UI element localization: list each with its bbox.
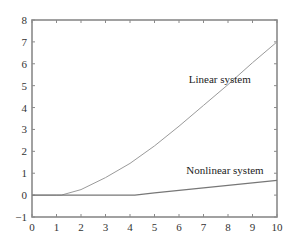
y-tick-label: 4 xyxy=(22,102,28,114)
y-tick-label: 2 xyxy=(22,145,28,157)
x-tick-label: 4 xyxy=(127,221,133,233)
plot-axes: 012345678910−1012345678 xyxy=(15,14,283,233)
y-tick-label: 0 xyxy=(22,189,28,201)
y-tick-label: 3 xyxy=(22,123,28,135)
nonlinear-system-label: Nonlinear system xyxy=(186,164,264,176)
y-tick-label: 8 xyxy=(22,14,28,26)
y-tick-label: 6 xyxy=(22,58,28,70)
x-tick-label: 2 xyxy=(78,221,84,233)
y-tick-label: 1 xyxy=(22,167,28,179)
plot-frame xyxy=(32,20,277,217)
x-tick-label: 6 xyxy=(176,221,182,233)
line-chart: 012345678910−1012345678 Linear systemNon… xyxy=(0,0,295,240)
x-tick-label: 5 xyxy=(152,221,158,233)
x-tick-label: 9 xyxy=(250,221,256,233)
x-tick-label: 8 xyxy=(225,221,231,233)
x-tick-label: 1 xyxy=(54,221,60,233)
y-tick-label: −1 xyxy=(15,211,27,223)
x-tick-label: 7 xyxy=(201,221,207,233)
x-tick-label: 3 xyxy=(103,221,109,233)
x-tick-label: 10 xyxy=(272,221,284,233)
y-tick-label: 7 xyxy=(22,36,28,48)
plot-annotations: Linear systemNonlinear system xyxy=(186,73,264,176)
linear-system-label: Linear system xyxy=(189,73,251,85)
x-tick-label: 0 xyxy=(29,221,35,233)
y-tick-label: 5 xyxy=(22,80,28,92)
